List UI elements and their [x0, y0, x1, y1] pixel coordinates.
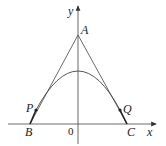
label-P: P [25, 101, 34, 115]
point-P [34, 108, 37, 111]
label-C: C [127, 125, 136, 139]
point-Q [118, 108, 121, 111]
label-B: B [25, 125, 33, 139]
origin-label: 0 [68, 125, 74, 137]
y-axis-label: y [67, 4, 74, 18]
diagram-svg: y x A P Q B C 0 [0, 0, 166, 146]
x-axis-label: x [146, 125, 153, 139]
diagram: y x A P Q B C 0 [0, 0, 166, 146]
label-A: A [80, 23, 89, 37]
label-Q: Q [123, 102, 132, 116]
